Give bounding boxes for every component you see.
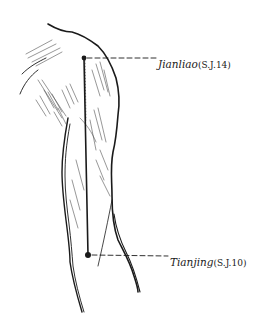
deltoid-edge [20, 58, 46, 94]
tianjing-point-marker [85, 252, 91, 258]
arm-outline-left [62, 118, 82, 312]
tianjing-code: (S.J.10) [213, 258, 246, 268]
arm-illustration [0, 0, 266, 332]
meridian-line [84, 58, 88, 255]
jianliao-point-marker [82, 56, 87, 61]
tianjing-name: Tianjing [170, 256, 213, 268]
tianjing-label: Tianjing(S.J.10) [170, 251, 246, 270]
tendon-line [98, 200, 112, 266]
tianjing-leader [92, 255, 168, 256]
shoulder-outline [48, 24, 138, 292]
jianliao-label: Jianliao(S.J.14) [158, 53, 231, 72]
jianliao-code: (S.J.14) [198, 60, 231, 70]
jianliao-name: Jianliao [158, 58, 198, 70]
